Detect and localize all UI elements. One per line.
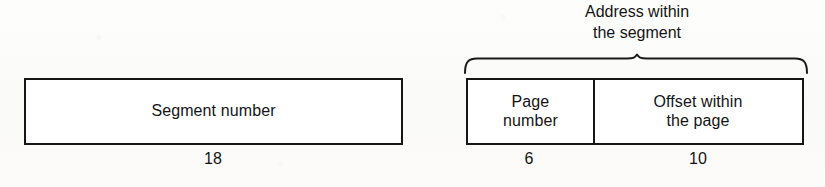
page-number-field-cell: Page number [468,80,593,143]
offset-within-page-bit-width: 10 [689,150,707,168]
offset-within-page-label: Offset within the page [653,93,742,130]
page-number-label: Page number [503,93,558,130]
offset-label-line-2: the page [666,112,729,129]
segment-number-field-box: Segment number [24,78,403,145]
offset-label-line-1: Offset within [653,93,742,110]
caption-line-2: the segment [585,23,689,44]
page-number-label-line-1: Page [512,93,550,110]
segment-number-label: Segment number [26,80,401,143]
page-number-label-line-2: number [503,112,558,129]
address-within-segment-caption: Address within the segment [585,2,689,44]
caption-line-1: Address within [585,2,689,23]
offset-within-page-field-cell: Offset within the page [593,80,801,143]
address-within-segment-field-box: Page number Offset within the page [466,78,804,145]
diagram-canvas: Address within the segment Segment numbe… [0,0,825,187]
segment-number-bit-width: 18 [204,150,222,168]
curly-brace-up-icon [462,52,810,76]
page-number-bit-width: 6 [525,150,534,168]
